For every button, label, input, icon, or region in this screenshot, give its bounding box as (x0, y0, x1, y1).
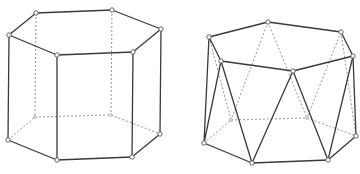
visible-edge (209, 22, 268, 37)
vertex-T4 (291, 69, 295, 73)
visible-edge (9, 13, 36, 35)
visible-edge (293, 71, 328, 160)
vertex-B3 (326, 158, 330, 162)
hidden-edge (35, 13, 36, 117)
visible-edge (132, 52, 133, 157)
visible-edge (221, 61, 252, 163)
hidden-edge (209, 37, 231, 120)
vertex-B4 (55, 158, 59, 162)
visible-edge (8, 35, 9, 140)
vertex-B3 (130, 155, 134, 159)
vertex-B4 (250, 161, 254, 165)
vertex-B0 (230, 119, 233, 122)
visible-edge (204, 143, 252, 163)
hidden-edge (231, 22, 268, 120)
vertex-T0 (207, 35, 211, 39)
vertex-T5 (7, 33, 11, 37)
vertex-B5 (202, 141, 206, 145)
hidden-edge (8, 117, 35, 140)
visible-edge (9, 35, 57, 55)
visible-edge (328, 136, 356, 160)
vertex-B5 (6, 138, 10, 142)
vertices (202, 20, 358, 165)
hidden-edge (35, 115, 111, 117)
hidden-edge (111, 115, 160, 134)
vertex-T2 (159, 27, 163, 31)
visible-edge (57, 52, 133, 55)
visible-edge (209, 37, 221, 61)
vertex-T3 (131, 50, 135, 54)
hidden-edge (231, 118, 307, 120)
vertex-B1 (110, 114, 113, 117)
vertex-B0 (34, 116, 37, 119)
visible-edge (328, 56, 353, 160)
vertex-T4 (55, 53, 59, 57)
polyhedra-diagram (0, 0, 360, 174)
vertex-T1 (266, 20, 270, 24)
visible-edge (160, 29, 161, 134)
visible-edge (252, 160, 328, 163)
visible-edge (132, 134, 160, 157)
hidden-edges (204, 22, 356, 143)
visible-edges (204, 22, 356, 163)
vertex-B2 (354, 134, 358, 138)
vertex-T2 (339, 30, 343, 34)
vertex-T5 (219, 59, 223, 63)
vertex-T3 (351, 54, 355, 58)
visible-edge (8, 140, 57, 160)
visible-edge (268, 22, 341, 32)
hexagonal-antiprism-figure (202, 20, 358, 165)
visible-edge (221, 61, 293, 71)
visible-edges (8, 10, 161, 160)
hidden-edge (111, 10, 112, 115)
vertex-B1 (306, 117, 309, 120)
visible-edge (293, 56, 353, 71)
visible-edge (204, 37, 209, 143)
hexagonal-prism-figure (6, 8, 163, 162)
vertex-T1 (110, 8, 114, 12)
visible-edge (112, 10, 161, 29)
visible-edge (57, 157, 132, 160)
vertex-T0 (34, 11, 38, 15)
vertex-B2 (158, 132, 162, 136)
vertices (6, 8, 163, 162)
visible-edge (133, 29, 161, 52)
visible-edge (252, 71, 293, 163)
hidden-edges (8, 10, 160, 140)
hidden-edge (307, 32, 341, 118)
visible-edge (36, 10, 112, 13)
